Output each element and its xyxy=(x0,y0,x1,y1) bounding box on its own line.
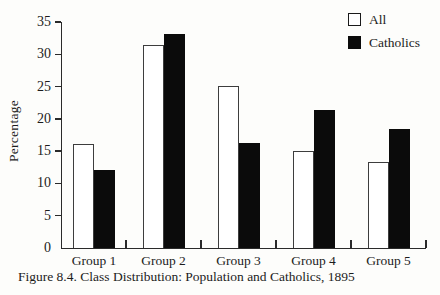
x-tick-mark xyxy=(425,240,426,248)
bar-group3-catholics xyxy=(239,143,260,248)
legend: All Catholics xyxy=(348,13,420,49)
legend-label-all: All xyxy=(369,13,386,27)
bar-group4-catholics xyxy=(314,110,335,248)
bar-group5-all xyxy=(368,162,389,248)
y-tick-mark xyxy=(55,21,61,22)
y-tick-mark xyxy=(55,54,61,55)
bar-group1-all xyxy=(73,144,94,248)
y-tick-mark xyxy=(55,215,61,216)
bar-group1-catholics xyxy=(94,170,115,248)
black-square-icon xyxy=(348,36,361,49)
y-tick-mark xyxy=(55,183,61,184)
bar-group2-catholics xyxy=(164,34,185,248)
x-category-label: Group 4 xyxy=(291,254,336,268)
x-tick-mark xyxy=(125,240,126,248)
y-tick-mark xyxy=(55,86,61,87)
x-tick-mark xyxy=(350,240,351,248)
legend-item-all: All xyxy=(348,13,420,27)
y-tick-label: 10 xyxy=(37,176,51,190)
legend-label-catholics: Catholics xyxy=(369,36,420,50)
y-axis-title: Percentage xyxy=(6,100,22,162)
figure-8-4: Percentage 05101520253035Group 1Group 2G… xyxy=(0,0,440,295)
x-category-label: Group 2 xyxy=(141,254,186,268)
y-tick-label: 5 xyxy=(44,208,51,222)
legend-item-catholics: Catholics xyxy=(348,36,420,50)
white-square-icon xyxy=(348,13,361,26)
bar-group2-all xyxy=(143,45,164,248)
y-tick-mark xyxy=(55,150,61,151)
plot-area: 05101520253035Group 1Group 2Group 3Group… xyxy=(61,22,426,249)
bar-group4-all xyxy=(293,151,314,249)
figure-caption: Figure 8.4. Class Distribution: Populati… xyxy=(18,269,355,285)
x-category-label: Group 1 xyxy=(72,254,117,268)
bar-group3-all xyxy=(218,86,239,248)
x-category-label: Group 5 xyxy=(366,254,411,268)
y-tick-label: 0 xyxy=(44,241,51,255)
y-tick-label: 25 xyxy=(37,79,51,93)
y-tick-label: 20 xyxy=(37,112,51,126)
y-tick-label: 35 xyxy=(37,15,51,29)
x-tick-mark xyxy=(200,240,201,248)
y-tick-mark xyxy=(55,118,61,119)
x-tick-mark xyxy=(275,240,276,248)
y-tick-label: 30 xyxy=(37,47,51,61)
y-tick-label: 15 xyxy=(37,144,51,158)
x-category-label: Group 3 xyxy=(216,254,261,268)
bar-group5-catholics xyxy=(389,129,410,248)
